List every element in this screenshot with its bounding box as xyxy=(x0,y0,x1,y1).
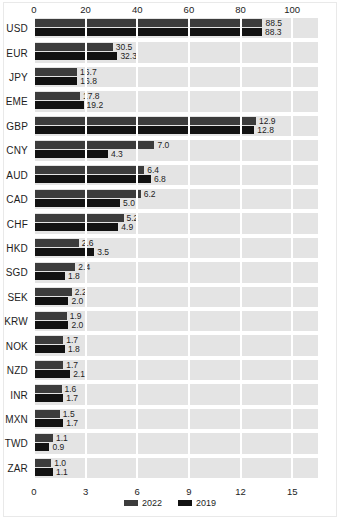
bar-sek-2022: 2.2 xyxy=(34,288,72,296)
chart-row-nok: NOK1.71.8 xyxy=(34,335,318,355)
axis-top-tick-40: 40 xyxy=(132,2,143,18)
bar-nok-2022: 1.7 xyxy=(34,336,63,344)
legend-item-2019[interactable]: 2019 xyxy=(178,498,216,508)
gridline-12 xyxy=(240,18,242,482)
chart-row-cny: CNY7.04.3 xyxy=(34,140,318,160)
chart-row-gbp: GBP12.912.8 xyxy=(34,116,318,136)
gridline-6 xyxy=(136,18,138,482)
axis-top-tick-60: 60 xyxy=(184,2,195,18)
row-label-jpy: JPY xyxy=(9,72,28,83)
chart-row-hkd: HKD2.63.5 xyxy=(34,238,318,258)
row-label-cad: CAD xyxy=(6,194,28,205)
row-label-nzd: NZD xyxy=(7,365,28,376)
bar-zar-2019: 1.1 xyxy=(34,468,53,476)
bar-inr-2022: 1.6 xyxy=(34,385,62,393)
row-label-sek: SEK xyxy=(7,291,28,302)
plot-area: USD88.588.3EUR30.532.3JPY16.716.8EME17.8… xyxy=(34,18,318,482)
bar-twd-2022: 1.1 xyxy=(34,434,53,442)
bar-sgd-2019: 1.8 xyxy=(34,272,65,280)
row-label-eme: EME xyxy=(6,96,28,107)
chart-row-eur: EUR30.532.3 xyxy=(34,42,318,62)
bar-value-sek-2019: 2.0 xyxy=(71,296,83,306)
bar-usd-2022: 88.5 xyxy=(34,19,262,27)
bar-mxn-2019: 1.7 xyxy=(34,419,63,427)
chart-row-jpy: JPY16.716.8 xyxy=(34,67,318,87)
bar-cny-2019: 4.3 xyxy=(34,150,108,158)
chart-legend: 20222019 xyxy=(0,498,340,508)
bar-value-twd-2019: 0.9 xyxy=(52,442,64,452)
bar-cad-2022: 6.2 xyxy=(34,190,141,198)
bar-aud-2019: 6.8 xyxy=(34,175,151,183)
row-label-zar: ZAR xyxy=(7,462,28,473)
row-label-hkd: HKD xyxy=(6,242,28,253)
bar-value-krw-2019: 2.0 xyxy=(71,320,83,330)
bar-gbp-2022: 12.9 xyxy=(34,117,256,125)
bar-value-hkd-2019: 3.5 xyxy=(97,247,109,257)
row-label-twd: TWD xyxy=(5,438,28,449)
chart-row-inr: INR1.61.7 xyxy=(34,384,318,404)
row-label-chf: CHF xyxy=(7,218,28,229)
axis-top-tick-20: 20 xyxy=(80,2,91,18)
bar-value-cad-2019: 5.0 xyxy=(123,198,135,208)
bar-sek-2019: 2.0 xyxy=(34,297,68,305)
row-label-cny: CNY xyxy=(6,145,28,156)
bar-eur-2022: 30.5 xyxy=(34,43,113,51)
axis-top-tick-0: 0 xyxy=(31,2,36,18)
row-label-eur: EUR xyxy=(6,47,28,58)
bar-cad-2019: 5.0 xyxy=(34,199,120,207)
legend-item-2022[interactable]: 2022 xyxy=(124,498,162,508)
chart-row-usd: USD88.588.3 xyxy=(34,18,318,38)
chart-row-aud: AUD6.46.8 xyxy=(34,165,318,185)
legend-label-2019: 2019 xyxy=(196,498,216,508)
bar-value-inr-2019: 1.7 xyxy=(66,393,78,403)
bar-aud-2022: 6.4 xyxy=(34,166,144,174)
bar-value-cny-2019: 4.3 xyxy=(111,149,123,159)
gridline-9 xyxy=(188,18,190,482)
chart-row-krw: KRW1.92.0 xyxy=(34,311,318,331)
chart-row-mxn: MXN1.51.7 xyxy=(34,409,318,429)
bar-zar-2022: 1.0 xyxy=(34,459,51,467)
bar-value-gbp-2019: 12.8 xyxy=(257,125,274,135)
bar-inr-2019: 1.7 xyxy=(34,394,63,402)
bar-eur-2019: 32.3 xyxy=(34,52,117,60)
chart-row-eme: EME17.819.2 xyxy=(34,91,318,111)
bar-value-sgd-2019: 1.8 xyxy=(68,271,80,281)
row-label-krw: KRW xyxy=(4,316,28,327)
bar-value-eur-2019: 32.3 xyxy=(120,51,137,61)
bar-gbp-2019: 12.8 xyxy=(34,126,254,134)
axis-top-tick-80: 80 xyxy=(235,2,246,18)
bar-nzd-2022: 1.7 xyxy=(34,361,63,369)
bar-krw-2022: 1.9 xyxy=(34,312,67,320)
bar-value-mxn-2019: 1.7 xyxy=(66,418,78,428)
chart-figure: 020406080100 USD88.588.3EUR30.532.3JPY16… xyxy=(0,0,340,520)
bar-nzd-2019: 2.1 xyxy=(34,370,70,378)
bar-value-eme-2019: 19.2 xyxy=(87,100,104,110)
bar-value-cad-2022: 6.2 xyxy=(144,189,156,199)
bar-value-hkd-2022: 2.6 xyxy=(82,238,94,248)
bar-twd-2019: 0.9 xyxy=(34,443,49,451)
chart-row-cad: CAD6.25.0 xyxy=(34,189,318,209)
bar-jpy-2019: 16.8 xyxy=(34,77,77,85)
row-label-aud: AUD xyxy=(6,169,28,180)
row-label-usd: USD xyxy=(6,23,28,34)
bar-value-chf-2019: 4.9 xyxy=(121,222,133,232)
bar-value-cny-2022: 7.0 xyxy=(157,140,169,150)
bar-krw-2019: 2.0 xyxy=(34,321,68,329)
axis-top: 020406080100 xyxy=(34,2,318,18)
bar-mxn-2022: 1.5 xyxy=(34,410,60,418)
bar-hkd-2022: 2.6 xyxy=(34,239,79,247)
bar-eme-2019: 19.2 xyxy=(34,101,84,109)
row-label-nok: NOK xyxy=(6,340,28,351)
gridline-15 xyxy=(291,18,293,482)
row-label-mxn: MXN xyxy=(5,413,28,424)
legend-swatch-2022 xyxy=(124,500,138,506)
bar-value-jpy-2019: 16.8 xyxy=(80,76,97,86)
legend-label-2022: 2022 xyxy=(142,498,162,508)
bar-usd-2019: 88.3 xyxy=(34,28,262,36)
row-band xyxy=(34,458,318,478)
chart-row-zar: ZAR1.01.1 xyxy=(34,458,318,478)
chart-row-nzd: NZD1.72.1 xyxy=(34,360,318,380)
chart-row-chf: CHF5.24.9 xyxy=(34,213,318,233)
legend-swatch-2019 xyxy=(178,500,192,506)
axis-top-tick-100: 100 xyxy=(284,2,300,18)
